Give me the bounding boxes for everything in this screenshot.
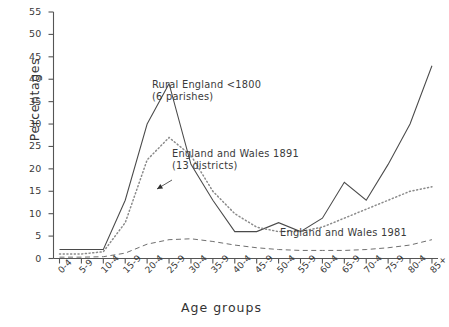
annotation-line: England and Wales 1891: [172, 148, 299, 160]
y-tick-label: 0: [16, 253, 42, 264]
ann-england-wales-1891: England and Wales 1891(13 districts): [172, 148, 299, 172]
annotation-line: (6 parishes): [152, 91, 261, 103]
y-tick-label: 50: [16, 28, 42, 39]
y-tick-marks: [49, 12, 54, 259]
y-tick-label: 25: [16, 140, 42, 151]
y-tick-label: 40: [16, 73, 42, 84]
y-tick-label: 20: [16, 163, 42, 174]
y-tick-label: 5: [16, 230, 42, 241]
ann-england-wales-1981: England and Wales 1981: [280, 227, 407, 239]
annotation-leader-lines: [157, 180, 172, 189]
y-tick-label: 45: [16, 51, 42, 62]
y-tick-label: 55: [16, 6, 42, 17]
annotation-line: England and Wales 1981: [280, 227, 407, 239]
y-tick-label: 10: [16, 208, 42, 219]
annotation-line: (13 districts): [172, 160, 299, 172]
y-tick-label: 35: [16, 96, 42, 107]
y-tick-label: 15: [16, 185, 42, 196]
y-tick-label: 30: [16, 118, 42, 129]
annotation-line: Rural England <1800: [152, 79, 261, 91]
x-axis-title: Age groups: [0, 300, 443, 315]
axis-lines: [54, 12, 439, 259]
ann-rural-england: Rural England <1800(6 parishes): [152, 79, 261, 103]
annotation-arrowhead: [157, 184, 163, 189]
